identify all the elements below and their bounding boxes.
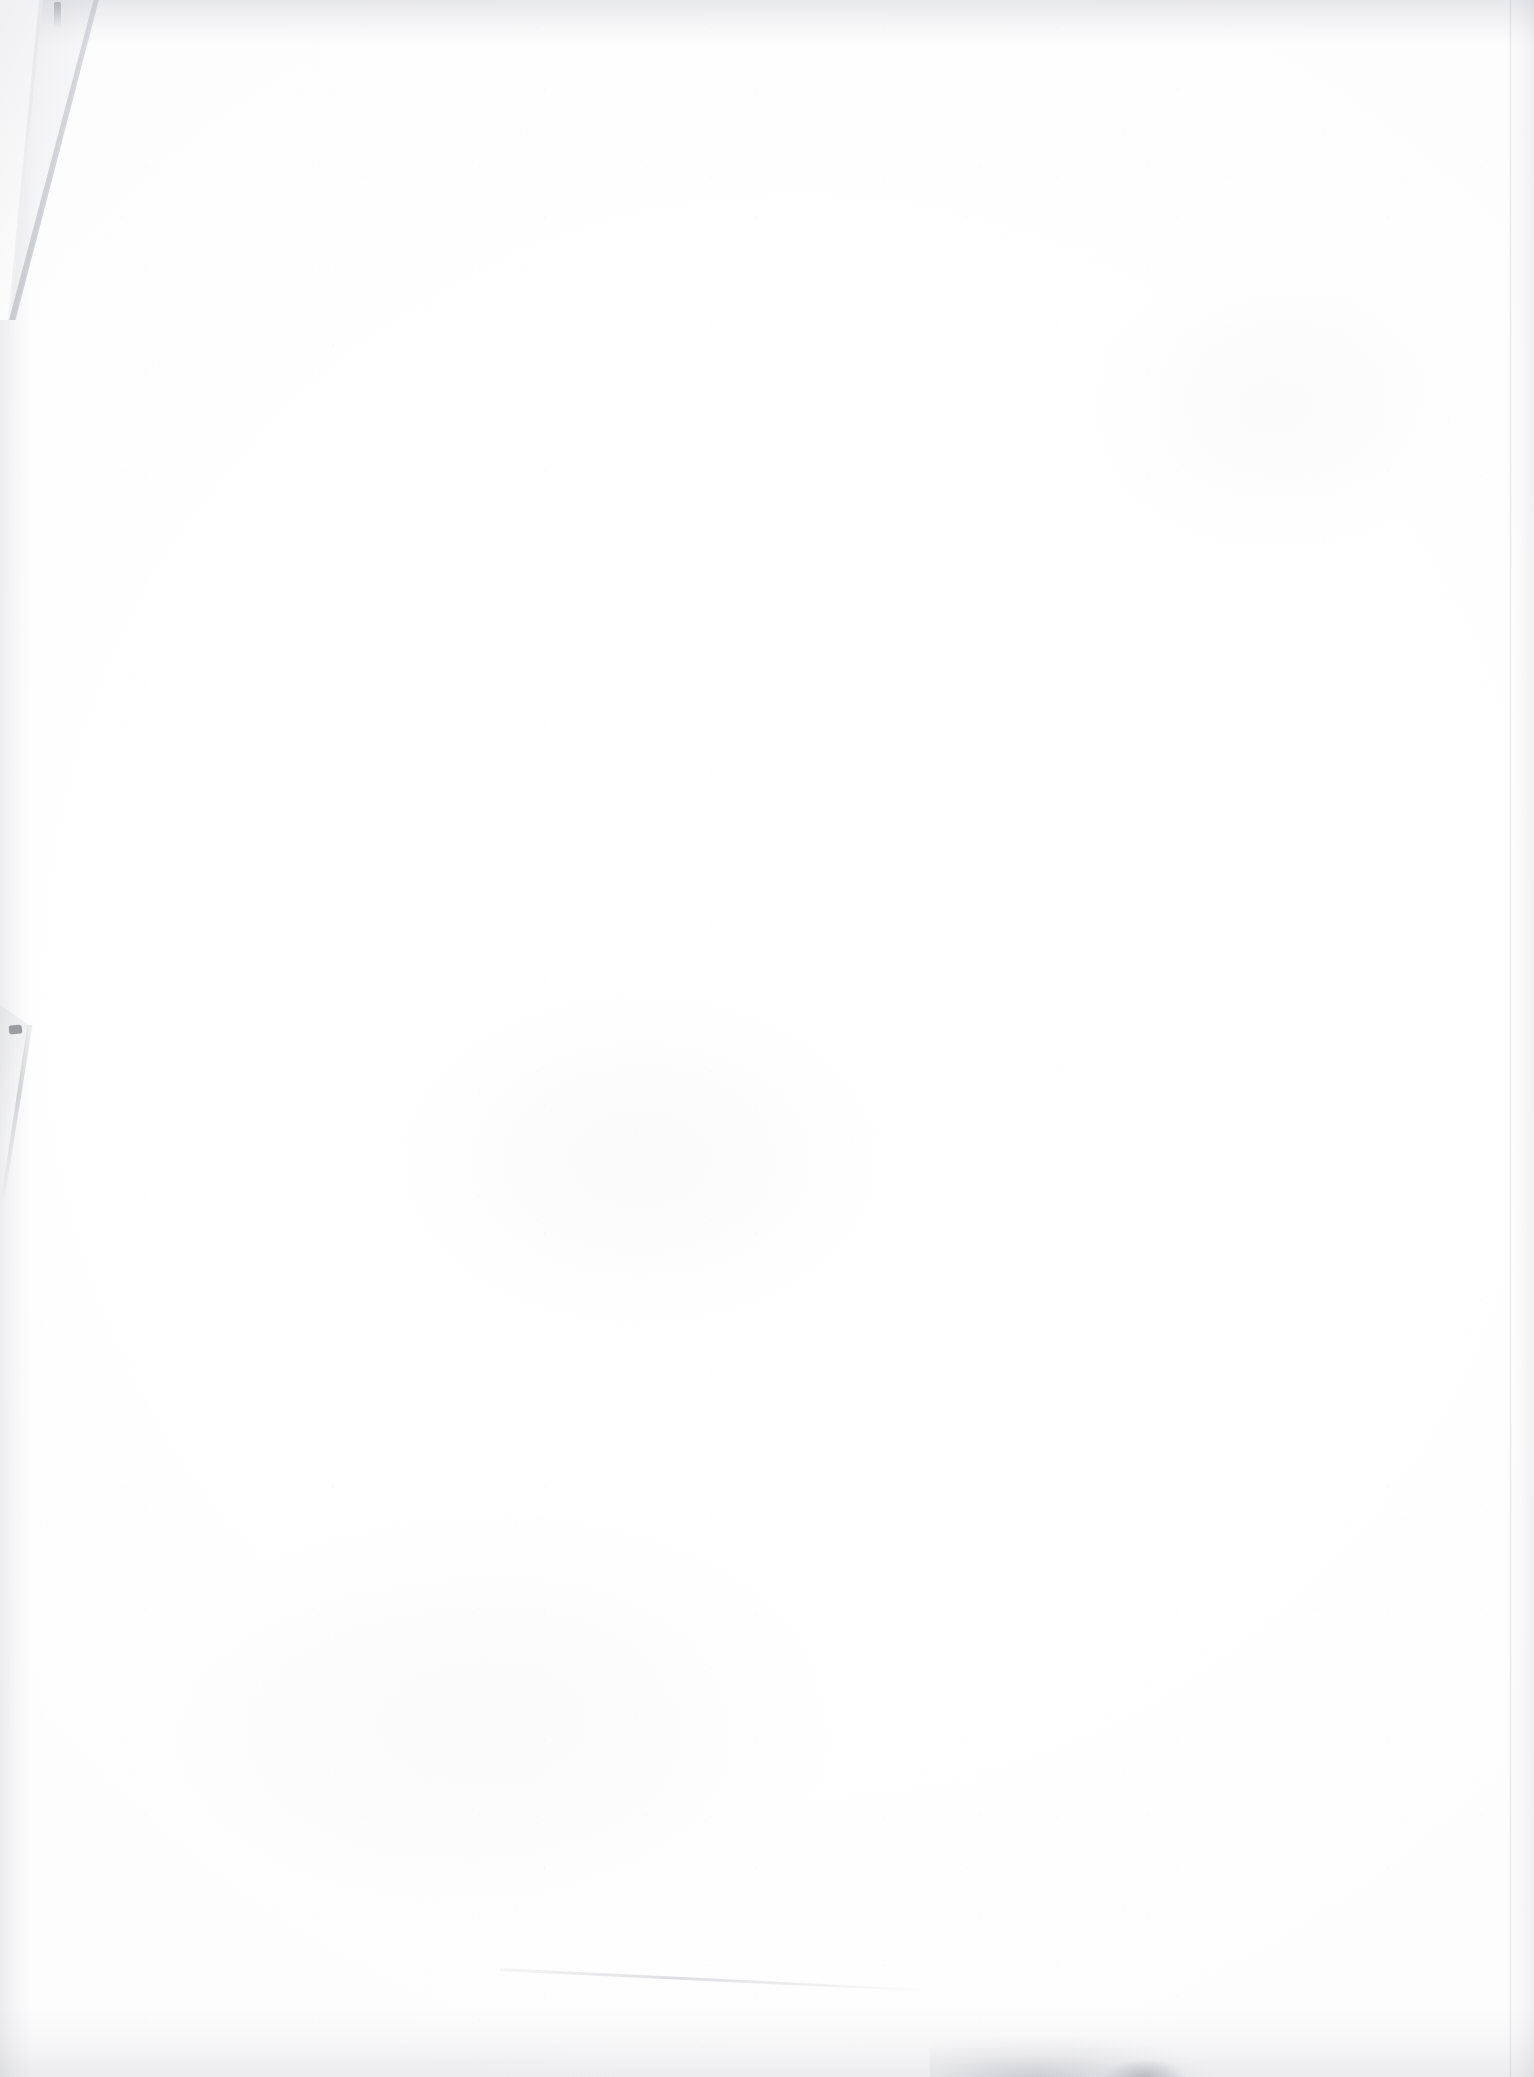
- edge-shadow-top: [0, 0, 1534, 46]
- tear-nick: [54, 2, 61, 28]
- notch-mark: [9, 1024, 23, 1034]
- paper-sheet: Blank page: [0, 0, 1534, 2077]
- edge-shadow-bottom: [0, 2007, 1534, 2077]
- scanned-page-canvas: Blank page: [0, 0, 1534, 2077]
- paper-tone-blotch-lower-left: [150, 1500, 850, 1920]
- paper-tone-blotch-upper-right: [1080, 260, 1460, 560]
- sheet-right-border: [1509, 0, 1512, 2077]
- torn-corner-top-left: [0, 0, 130, 320]
- smudge-bottom-secondary: [1090, 2053, 1200, 2077]
- paper-tone-blotch-center: [380, 980, 900, 1340]
- tear-notch-left: [0, 1005, 120, 1205]
